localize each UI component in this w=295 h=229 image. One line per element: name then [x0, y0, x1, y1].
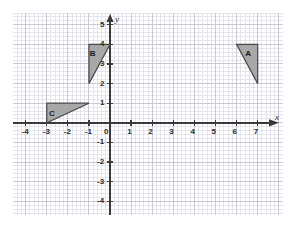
x-axis-tick-label: 3 — [169, 128, 173, 136]
x-axis-tick-label: -2 — [64, 128, 71, 136]
y-axis-tick-label: 2 — [100, 80, 104, 88]
x-axis-tick-label: 7 — [254, 128, 258, 136]
y-axis-tick-label: 5 — [100, 21, 104, 29]
x-axis-label: x — [275, 113, 279, 122]
y-axis-tick-label: -4 — [97, 197, 104, 205]
origin-label: 0 — [104, 128, 108, 136]
y-axis-tick-label: 3 — [100, 60, 104, 68]
y-axis-tick-label: -3 — [97, 178, 104, 186]
x-axis-tick-label: 2 — [148, 128, 152, 136]
coordinate-plane-figure: -4-3-2-1123456754321-1-2-3-40xyABC — [0, 0, 295, 229]
x-axis-tick-label: -4 — [22, 128, 29, 136]
shape-label-a: A — [245, 50, 251, 58]
x-axis-tick-label: 6 — [233, 128, 237, 136]
y-axis-tick-label: -2 — [97, 158, 104, 166]
plot-area: -4-3-2-1123456754321-1-2-3-40xyABC — [13, 13, 283, 215]
x-axis-tick-label: 4 — [190, 128, 194, 136]
x-axis-tick-label: -1 — [85, 128, 92, 136]
x-axis-tick-label: -3 — [43, 128, 50, 136]
x-axis-tick-label: 5 — [212, 128, 216, 136]
shape-label-c: C — [49, 110, 55, 118]
y-axis-tick-label: -1 — [97, 138, 104, 146]
y-axis-tick-label: 1 — [100, 99, 104, 107]
y-axis-label: y — [115, 15, 119, 24]
y-axis-tick-label: 4 — [100, 40, 104, 48]
shape-label-b: B — [90, 50, 96, 58]
x-axis-tick-label: 1 — [127, 128, 131, 136]
